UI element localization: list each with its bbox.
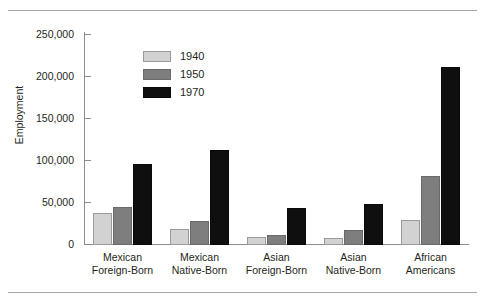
- bar-1970-mexican-foreign-born: [133, 164, 152, 245]
- y-tick-label: 150,000: [0, 113, 74, 124]
- y-tick-label: 250,000: [0, 29, 74, 40]
- bar-group: [324, 30, 383, 245]
- bar-1940-mexican-native-born: [170, 229, 189, 245]
- x-category-label-line: African: [386, 251, 475, 264]
- bar-1940-asian-foreign-born: [247, 237, 266, 245]
- x-category-label-line: Americans: [386, 264, 475, 277]
- chart-figure: 250,000200,000150,000100,00050,0000 Empl…: [0, 0, 485, 303]
- bar-1950-asian-native-born: [344, 230, 363, 245]
- bar-1950-mexican-native-born: [190, 221, 209, 245]
- x-category-label-line: Foreign-Born: [232, 264, 321, 277]
- x-category-label-line: Mexican: [78, 251, 167, 264]
- bar-1950-asian-foreign-born: [267, 235, 286, 245]
- legend-swatch-1950-icon: [143, 69, 171, 80]
- y-axis-title: Employment: [13, 50, 25, 180]
- x-category-label: MexicanForeign-Born: [78, 251, 167, 277]
- x-category-label: AfricanAmericans: [386, 251, 475, 277]
- bar-group: [247, 30, 306, 245]
- bar-1950-mexican-foreign-born: [113, 207, 132, 245]
- bar-1940-mexican-foreign-born: [93, 213, 112, 245]
- x-category-label-line: Asian: [309, 251, 398, 264]
- legend-row: 1950: [143, 66, 239, 82]
- x-category-label: AsianNative-Born: [309, 251, 398, 277]
- y-tick-label: 100,000: [0, 155, 74, 166]
- bar-1970-african-americans: [441, 67, 460, 245]
- bar-group: [401, 30, 460, 245]
- bottom-divider-rule: [8, 292, 477, 293]
- legend-label: 1970: [180, 86, 204, 98]
- x-category-label-line: Mexican: [155, 251, 244, 264]
- bar-1970-asian-native-born: [364, 204, 383, 245]
- x-category-label-line: Asian: [232, 251, 321, 264]
- bar-1970-mexican-native-born: [210, 150, 229, 245]
- top-divider-rule: [8, 10, 477, 11]
- x-category-label: MexicanNative-Born: [155, 251, 244, 277]
- legend-swatch-1940-icon: [143, 51, 171, 62]
- y-tick-label: 0: [0, 239, 74, 250]
- y-tick-label: 200,000: [0, 71, 74, 82]
- legend-row: 1970: [143, 84, 239, 100]
- x-category-label-line: Foreign-Born: [78, 264, 167, 277]
- y-tick-label: 50,000: [0, 197, 74, 208]
- bar-1950-african-americans: [421, 176, 440, 245]
- x-category-label: AsianForeign-Born: [232, 251, 321, 277]
- legend-label: 1950: [180, 68, 204, 80]
- x-category-label-line: Native-Born: [309, 264, 398, 277]
- chart-legend: 194019501970: [143, 48, 239, 102]
- legend-label: 1940: [180, 50, 204, 62]
- bar-1970-asian-foreign-born: [287, 208, 306, 245]
- legend-swatch-1970-icon: [143, 87, 171, 98]
- bar-1940-asian-native-born: [324, 238, 343, 245]
- x-category-label-line: Native-Born: [155, 264, 244, 277]
- legend-row: 1940: [143, 48, 239, 64]
- plot-area: [84, 30, 469, 245]
- bar-1940-african-americans: [401, 220, 420, 245]
